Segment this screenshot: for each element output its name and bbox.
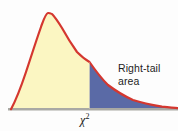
- chi-exponent: 2: [85, 112, 89, 121]
- right-tail-area-label: Right-tail area: [118, 62, 160, 88]
- chi-square-figure: Right-tail area χ2: [0, 0, 178, 131]
- right-tail-label-line1: Right-tail: [118, 62, 160, 75]
- body-area-fill: [11, 13, 90, 109]
- right-tail-label-line2: area: [118, 75, 160, 88]
- chi-square-axis-label: χ2: [80, 110, 90, 127]
